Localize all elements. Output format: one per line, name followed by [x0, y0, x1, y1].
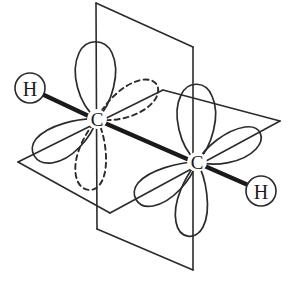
nodal-planes-group: [18, 3, 280, 270]
right-p-orbital-down-left-solid: [134, 162, 197, 206]
vplane-top-edge: [96, 3, 193, 47]
left-p-orbital-down-left-solid: [32, 119, 97, 163]
left-p-orbital-right-dashed: [97, 80, 158, 121]
right-p-orbital-up-right-solid: [197, 127, 261, 164]
orbital-diagram-canvas: C C H H: [0, 0, 288, 285]
carbon-right-label: C: [191, 152, 204, 173]
horizontal-nodal-plane: [18, 90, 280, 213]
bond-carbon-right-to-h-right: [200, 164, 248, 185]
hydrogen-left-atom: H: [15, 73, 45, 103]
hydrogen-right-atom: H: [246, 176, 276, 206]
bond-h-left-to-carbon-left: [44, 95, 95, 119]
acetylene-orbital-diagram: C C H H: [0, 0, 288, 285]
vplane-bottom-edge: [97, 229, 193, 270]
bond-carbon-left-to-carbon-right: [100, 121, 194, 162]
carbon-left-label: C: [91, 109, 104, 130]
left-p-orbital-down-dashed: [75, 119, 106, 190]
hydrogen-right-label: H: [254, 181, 268, 203]
hydrogen-left-label: H: [23, 78, 37, 100]
